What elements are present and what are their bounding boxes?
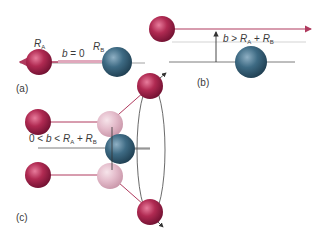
panel-b	[149, 16, 311, 78]
impact-relation: <	[52, 133, 63, 144]
molecule-a-lower-in	[25, 162, 51, 188]
radius-a-subscript: A	[41, 44, 45, 50]
molecule-a-ghost-upper	[97, 111, 123, 137]
radius-b-subscript: B	[93, 139, 97, 145]
molecule-a	[26, 49, 52, 75]
molecule-a-lower-out	[137, 199, 163, 225]
panel-a-tag: (a)	[16, 84, 28, 94]
radius-b-subscript: B	[270, 39, 274, 45]
panel-b-tag: (b)	[197, 78, 209, 88]
molecule-b	[105, 134, 135, 164]
radius-b-symbol: R	[86, 133, 93, 144]
panel-c	[25, 73, 166, 227]
molecule-b	[102, 47, 132, 77]
plus-sign: +	[74, 133, 85, 144]
molecule-a-upper-in	[25, 109, 51, 135]
impact-parameter-label-a: b = 0	[62, 49, 85, 59]
impact-parameter-band-a	[58, 60, 102, 63]
molecule-b	[235, 46, 267, 78]
radius-b-label: RB	[93, 42, 104, 53]
panel-c-tag: (c)	[16, 213, 28, 223]
radius-b-symbol: R	[263, 33, 270, 44]
exit-arrow-upper	[160, 73, 166, 78]
scattering-cone-ellipse	[137, 84, 165, 216]
impact-lower-bound: 0 <	[29, 133, 46, 144]
plus-sign: +	[251, 33, 262, 44]
impact-parameter-label-c: 0 < b < RA + RB	[29, 134, 97, 145]
radius-a-label: RA	[34, 39, 45, 50]
collision-impact-parameter-diagram	[0, 0, 324, 239]
impact-relation: = 0	[68, 48, 85, 59]
impact-relation: >	[229, 33, 240, 44]
radius-b-subscript: B	[100, 47, 104, 53]
impact-parameter-label-b: b > RA + RB	[223, 34, 274, 45]
molecule-a	[149, 16, 175, 42]
molecule-a-ghost-lower	[97, 163, 123, 189]
exit-arrow-lower	[158, 222, 163, 227]
molecule-a-upper-out	[137, 73, 163, 99]
